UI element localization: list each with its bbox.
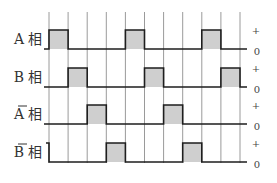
pulse-high [49,30,68,49]
phase-letter: A [13,31,25,47]
pulse-high [106,143,125,162]
phase-letter: A [13,106,25,122]
level-high-label: + [252,100,260,111]
level-high-label: + [252,25,260,36]
phase-letter: B [14,144,24,160]
phase-suffix: 相 [28,69,42,85]
phase-label: B相 [14,144,42,160]
timing-diagram-canvas: A相+0B相+0A相+0B相+0 [0,0,277,183]
pulse-high [221,68,240,87]
pulse-high [145,68,164,87]
phase-row-a-bar: A相+0 [13,100,260,132]
waveform [44,105,247,124]
pulse-high [68,68,87,87]
phase-label: A相 [13,31,42,47]
phase-letter: B [14,69,24,85]
phase-suffix: 相 [28,144,42,160]
phase-suffix: 相 [28,31,42,47]
phase-label: B相 [14,69,42,85]
pulse-high [125,30,144,49]
level-low-label: 0 [254,84,260,95]
phase-row-a: A相+0 [13,25,260,57]
phase-row-b: B相+0 [14,63,260,95]
level-high-label: + [252,138,260,149]
level-high-label: + [252,63,260,74]
pulse-high [164,105,183,124]
timing-diagram: A相+0B相+0A相+0B相+0 [0,0,277,183]
pulse-high [183,143,202,162]
phase-label: A相 [13,106,42,122]
phase-suffix: 相 [28,106,42,122]
level-low-label: 0 [254,121,260,132]
pulse-high [202,30,221,49]
pulse-high [87,105,106,124]
level-low-label: 0 [254,46,260,57]
waveform [46,143,247,162]
level-low-label: 0 [254,159,260,170]
phase-row-b-bar: B相+0 [14,138,260,170]
